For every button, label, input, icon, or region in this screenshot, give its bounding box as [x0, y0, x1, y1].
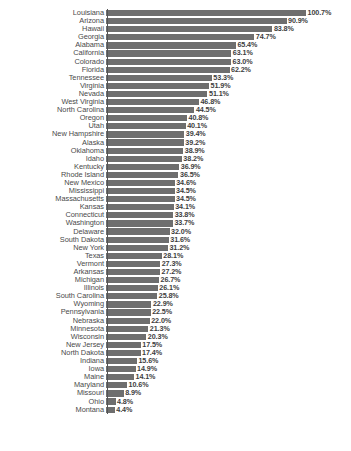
bar-row: Montana4.4% — [0, 406, 351, 414]
bar-row: North Carolina44.5% — [0, 106, 351, 114]
bar-track: 25.8% — [106, 292, 351, 300]
bar-track: 63.1% — [106, 49, 351, 57]
bar-row: Oregon40.8% — [0, 114, 351, 122]
bar — [106, 253, 162, 259]
bar-row: Alabama65.4% — [0, 41, 351, 49]
bar — [106, 237, 169, 243]
bar-value-label: 100.7% — [306, 9, 331, 17]
bar-track: 38.2% — [106, 155, 351, 163]
bar-row: West Virginia46.8% — [0, 98, 351, 106]
bar — [106, 342, 141, 348]
bar — [106, 334, 146, 340]
bar-track: 26.1% — [106, 284, 351, 292]
bar-track: 27.2% — [106, 268, 351, 276]
bar-track: 22.0% — [106, 317, 351, 325]
bar-track: 21.3% — [106, 325, 351, 333]
bar-row: Kentucky36.9% — [0, 163, 351, 171]
bar-track: 90.9% — [106, 17, 351, 25]
bar — [106, 196, 175, 202]
bar — [106, 115, 187, 121]
bar-row: Colorado63.0% — [0, 58, 351, 66]
bar-row: New Hampshire39.4% — [0, 130, 351, 138]
bar-track: 34.6% — [106, 179, 351, 187]
bar-track: 10.6% — [106, 381, 351, 389]
bar-value-label: 74.7% — [254, 33, 275, 41]
bar-track: 40.1% — [106, 122, 351, 130]
bar-track: 100.7% — [106, 9, 351, 17]
bar — [106, 107, 194, 113]
bar — [106, 83, 209, 89]
bar-track: 22.9% — [106, 300, 351, 308]
bar — [106, 293, 157, 299]
bar-track: 27.3% — [106, 260, 351, 268]
bar-track: 34.5% — [106, 187, 351, 195]
bar — [106, 390, 124, 396]
bar — [106, 42, 236, 48]
bar-track: 44.5% — [106, 106, 351, 114]
bar-row: Minnesota21.3% — [0, 325, 351, 333]
bar-row: New Jersey17.5% — [0, 341, 351, 349]
bar — [106, 212, 173, 218]
bar-track: 74.7% — [106, 33, 351, 41]
bar — [106, 277, 159, 283]
bar-track: 31.6% — [106, 236, 351, 244]
bar-value-label: 4.4% — [115, 406, 132, 414]
bar — [106, 261, 160, 267]
bar — [106, 350, 141, 356]
bar-row: Iowa14.9% — [0, 365, 351, 373]
bar-track: 26.7% — [106, 276, 351, 284]
bar-track: 63.0% — [106, 58, 351, 66]
bar-row: Oklahoma38.9% — [0, 147, 351, 155]
bar-track: 33.8% — [106, 211, 351, 219]
bar-row: Virginia51.9% — [0, 82, 351, 90]
bar-track: 32.0% — [106, 228, 351, 236]
bar-row: Florida62.2% — [0, 66, 351, 74]
bar-track: 33.7% — [106, 219, 351, 227]
bar — [106, 59, 231, 65]
bar — [106, 228, 170, 234]
bar — [106, 318, 150, 324]
bar-track: 4.4% — [106, 406, 351, 414]
bar-chart: Louisiana100.7%Arizona90.9%Hawaii83.8%Ge… — [0, 0, 351, 451]
bar-row: Wisconsin20.3% — [0, 333, 351, 341]
bar-track: 39.2% — [106, 139, 351, 147]
bar — [106, 204, 174, 210]
bar-track: 83.8% — [106, 25, 351, 33]
bar — [106, 382, 127, 388]
bar-row: Maryland10.6% — [0, 381, 351, 389]
bar-row: Ohio4.8% — [0, 398, 351, 406]
bar — [106, 10, 306, 16]
bar — [106, 139, 184, 145]
bar-row: Nevada51.1% — [0, 90, 351, 98]
bar — [106, 67, 230, 73]
bar — [106, 285, 158, 291]
bar-row: Maine14.1% — [0, 373, 351, 381]
bar-track: 34.5% — [106, 195, 351, 203]
bar-track: 39.4% — [106, 130, 351, 138]
bar — [106, 26, 272, 32]
bar-row: Alaska39.2% — [0, 139, 351, 147]
bar-track: 65.4% — [106, 41, 351, 49]
bar — [106, 172, 178, 178]
bar — [106, 99, 199, 105]
bar-track: 4.8% — [106, 398, 351, 406]
bar — [106, 164, 179, 170]
bar-track: 36.5% — [106, 171, 351, 179]
bar-row: Idaho38.2% — [0, 155, 351, 163]
bar-track: 46.8% — [106, 98, 351, 106]
bar-track: 36.9% — [106, 163, 351, 171]
bar-track: 51.1% — [106, 90, 351, 98]
bar — [106, 358, 137, 364]
bar — [106, 123, 186, 129]
bar-track: 40.8% — [106, 114, 351, 122]
bar — [106, 180, 175, 186]
bar — [106, 220, 173, 226]
bar — [106, 366, 136, 372]
bar-row: Nebraska22.0% — [0, 317, 351, 325]
bar — [106, 91, 207, 97]
bar — [106, 75, 212, 81]
bar-row: Missouri8.9% — [0, 389, 351, 397]
bar-category-label: Montana — [0, 406, 106, 414]
bar-row: Arizona90.9% — [0, 17, 351, 25]
bar — [106, 326, 148, 332]
